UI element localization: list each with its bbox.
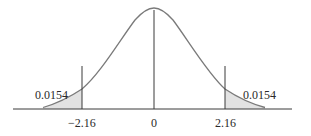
tick-label-left: −2.16 (68, 117, 96, 129)
normal-distribution-chart: 0.0154 0.0154 −2.16 0 2.16 (0, 0, 311, 136)
tick-label-right: 2.16 (215, 117, 236, 129)
tick-label-center: 0 (151, 117, 157, 129)
right-tail-area-label: 0.0154 (243, 89, 276, 101)
left-tail-area-label: 0.0154 (35, 89, 68, 101)
